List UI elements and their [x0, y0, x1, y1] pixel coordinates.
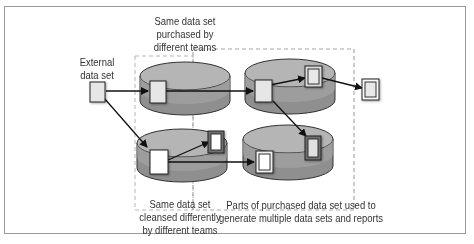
report-icon	[305, 66, 322, 87]
label-line: by different teams	[124, 224, 236, 237]
label-line: Same data set	[133, 15, 236, 28]
parts-label: Parts of purchased data set used to gene…	[211, 199, 392, 225]
label-line: purchased by	[133, 28, 236, 41]
purchased-label: Same data set purchased by different tea…	[133, 15, 236, 54]
derived-data-icon	[255, 80, 272, 102]
label-line: generate multiple data sets and reports	[211, 212, 392, 225]
label-line: External	[67, 56, 127, 69]
label-line: Parts of purchased data set used to	[211, 199, 392, 212]
external-data-set-label: External data set	[67, 56, 127, 82]
arrow	[104, 98, 147, 147]
label-line: different teams	[133, 41, 236, 54]
cleansed-data-icon	[150, 150, 168, 174]
report-icon	[362, 79, 379, 100]
purchased-data-icon	[150, 81, 166, 103]
report-icon	[305, 136, 321, 160]
report-icon	[208, 131, 224, 153]
external-data-set-icon	[90, 82, 105, 102]
label-line: data set	[67, 69, 127, 82]
report-icon	[256, 151, 273, 173]
